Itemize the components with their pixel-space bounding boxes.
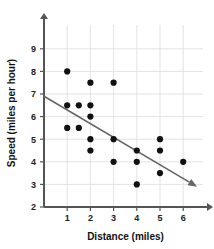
data-point: (1, 5.5)	[64, 125, 70, 131]
data-point: (3, 7.5)	[111, 80, 117, 86]
data-point: (5, 5)	[157, 136, 163, 142]
data-point: (4, 4)	[134, 159, 140, 165]
gridlines-group	[44, 25, 203, 207]
scatter-plot-figure: 12345623456789 (1, 8)(1, 6.5)(1, 5.5)(1.…	[0, 0, 214, 249]
x-tick-label: 1	[65, 213, 70, 223]
data-point: (4, 4.5)	[134, 147, 140, 153]
x-axis-arrowhead	[207, 203, 213, 211]
data-point: (5, 3.5)	[157, 170, 163, 176]
x-tick-label: 4	[134, 213, 139, 223]
x-tick-label: 5	[157, 213, 162, 223]
y-tick-label: 9	[31, 44, 36, 54]
plot-canvas: 12345623456789 (1, 8)(1, 6.5)(1, 5.5)(1.…	[0, 0, 214, 249]
data-point: (1, 8)	[64, 68, 70, 74]
data-point: (6, 4)	[180, 159, 186, 165]
data-point: (2, 6)	[87, 114, 93, 120]
data-point: (2, 7.5)	[87, 80, 93, 86]
data-point: (1.5, 6.5)	[76, 102, 82, 108]
y-tick-label: 6	[31, 112, 36, 122]
data-point: (1, 6.5)	[64, 102, 70, 108]
y-axis-title: Speed (miles per hour)	[6, 59, 17, 167]
data-point: (3, 5)	[111, 136, 117, 142]
y-axis-arrowhead	[40, 13, 48, 19]
data-point: (1.5, 5.5)	[76, 125, 82, 131]
data-point: (3, 4)	[111, 159, 117, 165]
y-tick-label: 3	[31, 180, 36, 190]
tick-marks-group	[40, 49, 183, 211]
y-tick-label: 7	[31, 89, 36, 99]
data-point: (2, 5)	[87, 136, 93, 142]
data-point: (2, 6.5)	[87, 102, 93, 108]
y-tick-label: 5	[31, 135, 36, 145]
y-tick-label: 2	[31, 202, 36, 212]
trend-line-arrowhead	[188, 179, 198, 187]
x-axis-title: Distance (miles)	[87, 231, 164, 242]
data-point: (5, 4.5)	[157, 147, 163, 153]
data-point: (2, 4.5)	[87, 147, 93, 153]
x-tick-label: 6	[181, 213, 186, 223]
data-point: (4, 3)	[134, 181, 140, 187]
x-tick-label: 3	[111, 213, 116, 223]
y-tick-label: 4	[31, 157, 36, 167]
x-tick-label: 2	[88, 213, 93, 223]
y-tick-label: 8	[31, 67, 36, 77]
